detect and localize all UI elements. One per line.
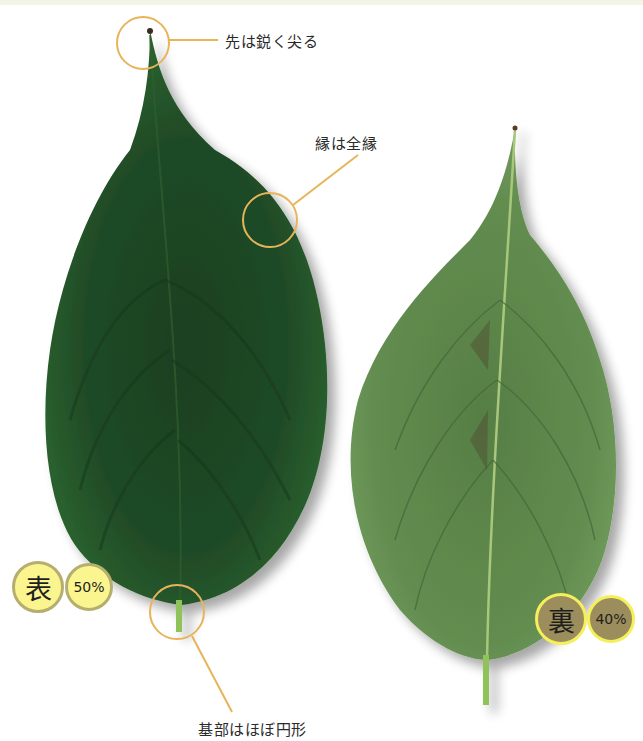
front-leaf: [45, 30, 327, 632]
front-scale-badge: 50%: [65, 563, 113, 611]
margin-annotation: 縁は全縁: [315, 132, 377, 153]
tip-annotation: 先は鋭く尖る: [225, 30, 318, 51]
back-scale-badge: 40%: [587, 595, 635, 643]
base-annotation: 基部はほぼ円形: [198, 718, 307, 739]
tip-callout: [117, 17, 218, 69]
back-side-badge: 裏: [535, 593, 587, 645]
base-callout: [150, 585, 232, 712]
front-side-badge: 表: [12, 561, 64, 613]
